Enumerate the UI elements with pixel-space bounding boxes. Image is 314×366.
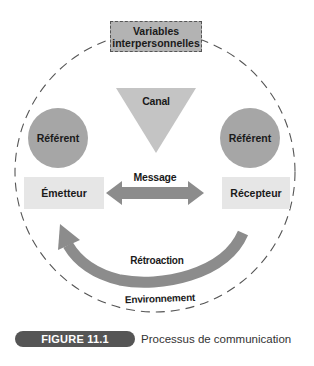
message-label: Message bbox=[125, 171, 185, 183]
figure-number: FIGURE 11.1 bbox=[41, 333, 109, 345]
interpersonal-variables-box: Variables interpersonnelles bbox=[110, 21, 202, 52]
figure-caption: Processus de communication bbox=[141, 331, 291, 347]
receiver-label: Récepteur bbox=[230, 187, 281, 199]
sender-box: Émetteur bbox=[24, 177, 104, 209]
referent-left: Référent bbox=[28, 108, 88, 168]
figure-number-badge: FIGURE 11.1 bbox=[15, 331, 135, 347]
channel-label: Canal bbox=[136, 95, 176, 107]
referent-right: Référent bbox=[220, 108, 280, 168]
message-double-arrow bbox=[106, 181, 204, 205]
variables-line1: Variables bbox=[133, 25, 179, 37]
referent-left-label: Référent bbox=[37, 132, 80, 144]
feedback-label: Rétroaction bbox=[122, 255, 192, 266]
receiver-box: Récepteur bbox=[222, 177, 290, 209]
sender-label: Émetteur bbox=[41, 187, 87, 199]
referent-right-label: Référent bbox=[229, 132, 272, 144]
variables-line2: interpersonnelles bbox=[112, 37, 200, 49]
